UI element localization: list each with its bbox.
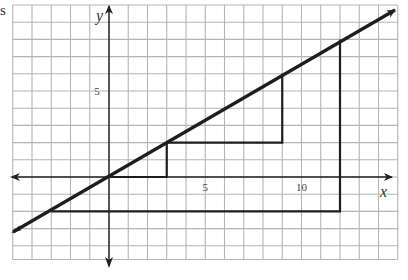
x-tick-label: 10 — [296, 181, 308, 193]
axis-labels: yx5105 — [94, 7, 387, 200]
x-tick-label: 5 — [203, 181, 209, 193]
y-tick-label: 5 — [94, 85, 100, 97]
corner-text-fragment: s — [0, 2, 6, 19]
x-axis-label: x — [379, 183, 387, 200]
proportional-line — [11, 10, 395, 233]
graph-svg: yx5105 — [0, 0, 408, 280]
y-axis-label: y — [94, 7, 104, 25]
coordinate-graph: s yx5105 — [0, 0, 408, 280]
